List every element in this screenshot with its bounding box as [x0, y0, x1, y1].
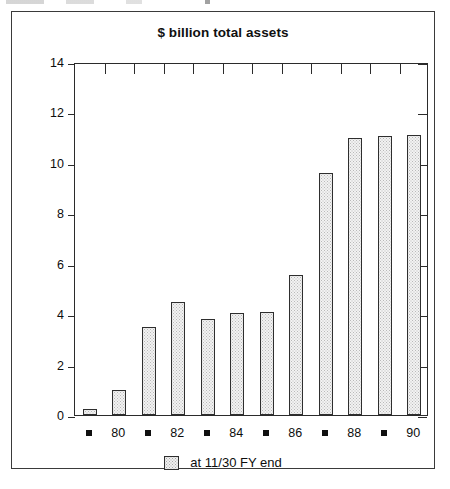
- x-tick-top-1: [105, 64, 106, 74]
- x-tick-top-5: [223, 64, 224, 74]
- x-axis-marker-icon: [204, 430, 210, 436]
- x-axis-marker-81: [141, 426, 155, 436]
- x-tick-top-2: [134, 64, 135, 74]
- bar-83: [201, 319, 215, 415]
- chart-card: $ billion total assets 02468101214 80828…: [11, 11, 435, 469]
- bar-88: [348, 138, 362, 415]
- bar-84: [230, 313, 244, 415]
- x-tick-top-10: [370, 64, 371, 74]
- x-axis-label-86: 86: [283, 426, 307, 440]
- y-tick-10: [68, 165, 75, 166]
- x-tick-top-8: [311, 64, 312, 74]
- x-axis-marker-icon: [381, 430, 387, 436]
- x-axis-marker-icon: [263, 430, 269, 436]
- x-tick-top-7: [282, 64, 283, 74]
- y-axis-label-14: 14: [30, 56, 64, 70]
- x-tick-top-11: [400, 64, 401, 74]
- x-axis-label-80: 80: [106, 426, 130, 440]
- y-axis-label-6: 6: [30, 258, 64, 272]
- bar-90: [407, 135, 421, 415]
- y-axis-label-0: 0: [30, 409, 64, 423]
- x-axis-label-82: 82: [165, 426, 189, 440]
- x-tick-top-9: [341, 64, 342, 74]
- y-tick-14: [68, 64, 75, 65]
- bar-89: [378, 136, 392, 415]
- y-axis-label-10: 10: [30, 157, 64, 171]
- bar-82: [171, 302, 185, 415]
- x-axis-marker-85: [259, 426, 273, 436]
- y-tick-12: [68, 114, 75, 115]
- x-tick-top-6: [252, 64, 253, 74]
- page-title: $ billion total assets: [12, 25, 434, 40]
- x-axis-marker-83: [200, 426, 214, 436]
- y-axis-label-12: 12: [30, 106, 64, 120]
- y-axis-label-2: 2: [30, 359, 64, 373]
- bar-85: [260, 312, 274, 415]
- bar-79: [83, 409, 97, 415]
- chart-legend: at 11/30 FY end: [12, 455, 434, 470]
- x-axis-marker-79: [82, 426, 96, 436]
- x-axis-label-90: 90: [401, 426, 425, 440]
- y-tick-right-14: [418, 64, 427, 65]
- x-axis-marker-87: [318, 426, 332, 436]
- scan-artifact-strip: [6, 0, 196, 4]
- x-axis-labels: 808284868890: [74, 426, 428, 446]
- y-tick-0: [68, 417, 75, 418]
- x-axis-label-88: 88: [342, 426, 366, 440]
- y-tick-right-12: [418, 114, 427, 115]
- y-axis-label-4: 4: [30, 308, 64, 322]
- y-axis-label-8: 8: [30, 207, 64, 221]
- y-tick-2: [68, 367, 75, 368]
- legend-swatch-icon: [164, 456, 179, 470]
- x-axis-marker-icon: [86, 430, 92, 436]
- scan-artifact-dot: [205, 0, 210, 4]
- x-axis-marker-89: [377, 426, 391, 436]
- y-tick-6: [68, 266, 75, 267]
- x-axis-marker-icon: [145, 430, 151, 436]
- x-tick-top-4: [193, 64, 194, 74]
- x-tick-top-3: [164, 64, 165, 74]
- x-axis-marker-icon: [322, 430, 328, 436]
- y-tick-8: [68, 215, 75, 216]
- bar-80: [112, 390, 126, 415]
- x-axis-label-84: 84: [224, 426, 248, 440]
- y-tick-right-0: [418, 417, 427, 418]
- bar-87: [319, 173, 333, 415]
- bar-86: [289, 275, 303, 415]
- y-tick-4: [68, 316, 75, 317]
- plot-area: [74, 63, 428, 416]
- legend-label: at 11/30 FY end: [190, 455, 281, 470]
- bar-81: [142, 327, 156, 415]
